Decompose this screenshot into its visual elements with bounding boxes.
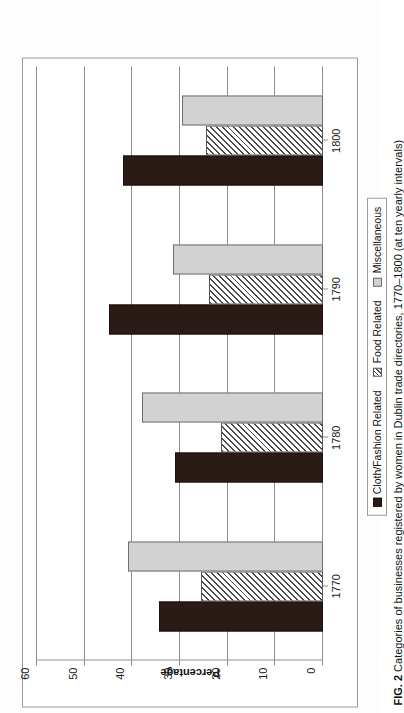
legend-item-miscellaneous: Miscellaneous: [371, 206, 383, 286]
bar-1770-series-1: [201, 571, 323, 601]
x-tick-mark-1790: [323, 288, 328, 289]
y-tick-mark-20: [227, 660, 228, 665]
y-tick-mark-30: [179, 660, 180, 665]
bar-1780-series-2: [142, 392, 323, 422]
y-tick-mark-50: [84, 660, 85, 665]
legend-swatch-food-related-icon: [373, 367, 382, 376]
y-tick-mark-60: [36, 660, 37, 665]
x-tick-label-1780: 1780: [330, 425, 342, 449]
y-tick-label-0: 0: [305, 667, 317, 673]
y-tick-mark-10: [274, 660, 275, 665]
bar-groups: 1770178017901800: [37, 66, 323, 660]
chart-frame: Percentage 0102030405060 177017801790180…: [22, 57, 358, 707]
plot-area: 0102030405060 1770178017901800: [37, 66, 323, 660]
bar-1800-series-2: [182, 95, 323, 125]
bar-1790-series-2: [173, 244, 323, 274]
legend-label-food-related: Food Related: [371, 300, 383, 363]
bar-1800-series-1: [206, 125, 323, 155]
bar-1770-series-0: [159, 601, 323, 631]
x-tick-mark-1800: [323, 139, 328, 140]
bar-1780-series-0: [175, 452, 323, 482]
y-tick-label-10: 10: [257, 667, 269, 679]
figure-caption: FIG. 2 Categories of businesses register…: [392, 139, 404, 705]
y-tick-mark-0: [322, 660, 323, 665]
legend-label-cloth-fashion: Cloth/Fashion Related: [371, 390, 383, 494]
bar-1780-series-1: [221, 422, 323, 452]
chart-legend: Cloth/Fashion Related Food Related Misce…: [367, 197, 387, 516]
figure-number: FIG. 2: [392, 674, 404, 705]
y-tick-label-50: 50: [67, 667, 79, 679]
y-tick-label-40: 40: [114, 667, 126, 679]
x-tick-label-1770: 1770: [330, 574, 342, 598]
bar-group-1770: 1770: [37, 512, 323, 661]
figure-caption-text: Categories of businesses registered by w…: [392, 139, 404, 671]
legend-item-food-related: Food Related: [371, 300, 383, 376]
x-tick-mark-1770: [323, 585, 328, 586]
y-tick-label-20: 20: [210, 667, 222, 679]
bar-1790-series-0: [109, 304, 324, 334]
bar-group-1790: 1790: [37, 215, 323, 364]
x-tick-label-1800: 1800: [330, 128, 342, 152]
legend-item-cloth-fashion: Cloth/Fashion Related: [371, 390, 383, 507]
bar-1770-series-2: [128, 541, 323, 571]
x-tick-mark-1780: [323, 436, 328, 437]
legend-swatch-cloth-fashion-icon: [373, 498, 382, 507]
legend-swatch-miscellaneous-icon: [373, 277, 382, 286]
bar-1790-series-1: [209, 274, 323, 304]
y-tick-mark-40: [131, 660, 132, 665]
y-tick-label-60: 60: [19, 667, 31, 679]
bar-group-1780: 1780: [37, 363, 323, 512]
bar-1800-series-0: [123, 155, 323, 185]
x-tick-label-1790: 1790: [330, 277, 342, 301]
bar-group-1800: 1800: [37, 66, 323, 215]
legend-label-miscellaneous: Miscellaneous: [371, 206, 383, 273]
y-tick-label-30: 30: [162, 667, 174, 679]
